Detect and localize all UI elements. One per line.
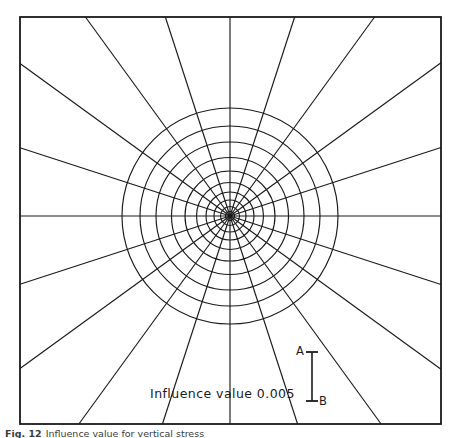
influence-chart-canvas [0,0,461,438]
figure-caption: Fig. 12Influence value for vertical stre… [5,428,455,438]
scale-bar-label-b: B [319,396,327,408]
figure-caption-text: Influence value for vertical stress [46,428,204,438]
scale-bar-label-a: A [296,346,304,358]
newmark-influence-chart-figure: Influence value 0.005 A B Fig. 12Influen… [0,0,461,438]
figure-caption-number: Fig. 12 [5,428,42,438]
influence-value-label: Influence value 0.005 [150,386,295,401]
